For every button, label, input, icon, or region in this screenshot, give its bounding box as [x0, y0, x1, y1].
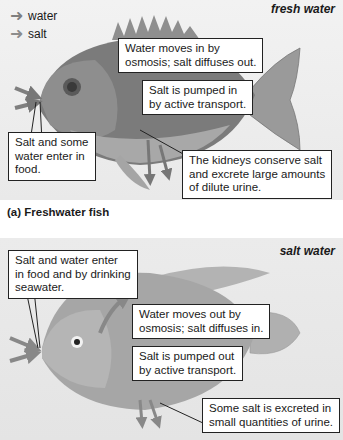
water-arrow-icon: ➜ — [10, 6, 23, 25]
food-callout: Salt and some water enter in food. — [8, 132, 96, 181]
freshwater-environment-label: fresh water — [271, 2, 335, 16]
saltwater-food-callout: Salt and water enter in food and by drin… — [8, 250, 138, 299]
salt-arrow-icon: ➜ — [10, 24, 23, 43]
saltwater-environment-label: salt water — [280, 244, 335, 258]
urine-callout: Some salt is excreted in small quantitie… — [202, 398, 340, 433]
osmosis-callout: Water moves in by osmosis; salt diffuses… — [118, 38, 263, 73]
freshwater-panel: ➜ water ➜ salt fresh water Water moves i… — [0, 0, 343, 200]
pump-callout: Salt is pumped in by active transport. — [142, 80, 253, 115]
saltwater-panel: salt water Salt and water enter in food … — [0, 238, 343, 440]
saltwater-pump-callout: Salt is pumped out by active transport. — [132, 346, 243, 381]
kidneys-callout: The kidneys conserve salt and excrete la… — [182, 150, 332, 199]
freshwater-caption: (a) Freshwater fish — [7, 206, 109, 218]
legend-salt: ➜ salt — [10, 24, 47, 43]
legend-water: ➜ water — [10, 6, 57, 25]
dorsal-fin-icon — [112, 15, 200, 40]
saltwater-osmosis-callout: Water moves out by osmosis; salt diffuse… — [132, 304, 270, 339]
